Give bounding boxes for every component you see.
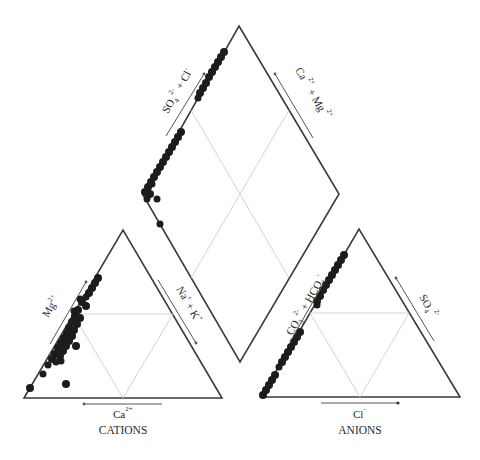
arrow-head-icon [396,401,399,404]
ca-mg-axis-label: Ca2++ Mg2+ [293,64,335,122]
mg-axis-label: Mg2+ [38,293,61,319]
arrow-head-icon [195,342,198,345]
arrow-head-icon [85,281,88,284]
arrow-head-icon [274,73,277,76]
piper-diagram: Mg2+ Na++ K+ Ca2+ CATIONS [0,0,480,460]
so4-axis-label: SO42- [415,291,443,322]
arrow-head-icon [203,73,206,76]
cl-axis-label: Cl- [353,405,366,420]
arrow-head-icon [83,403,86,406]
anion-triangle: CO32-+ HCO3- SO42- Cl- ANIONS [259,229,460,436]
ca-axis-label: Ca2+ [113,405,133,420]
cations-title: CATIONS [99,424,148,436]
diamond-frame [143,26,339,362]
na-k-axis-label: Na++ K+ [174,284,205,325]
arrow-head-icon [395,277,398,280]
ca-mg-axis-arrow [275,74,313,138]
anion-grid-line [310,313,409,397]
cation-triangle: Mg2+ Na++ K+ Ca2+ CATIONS [24,230,222,436]
cation-grid-line [73,314,173,398]
anions-title: ANIONS [338,424,381,436]
co3-hco3-axis-label: CO32-+ HCO3- [282,272,330,339]
